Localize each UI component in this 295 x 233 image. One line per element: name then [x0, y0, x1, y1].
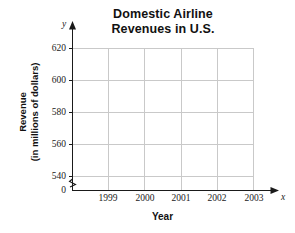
y-axis-arrow-icon: [69, 21, 76, 30]
y-tick-label-540: 540: [32, 171, 66, 181]
y-tick-label-560: 560: [32, 139, 66, 149]
y-tick-label-580: 580: [32, 107, 66, 117]
y-tick-label-0: 0: [32, 185, 66, 195]
x-axis-title: Year: [70, 211, 255, 222]
x-tick-label-2000: 2000: [125, 193, 165, 203]
y-tick-label-600: 600: [32, 75, 66, 85]
x-tick-label-1999: 1999: [88, 193, 128, 203]
y-axis-letter: y: [62, 19, 66, 29]
chart-figure: Domestic Airline Revenues in U.S. Revenu…: [0, 0, 295, 233]
horizontal-gridlines: [73, 49, 254, 177]
vertical-gridlines: [109, 49, 254, 191]
x-axis-letter: x: [281, 192, 285, 202]
x-tick-label-2003: 2003: [234, 193, 274, 203]
x-tick-label-2001: 2001: [161, 193, 201, 203]
x-tick-label-2002: 2002: [197, 193, 237, 203]
y-tick-label-620: 620: [32, 43, 66, 53]
